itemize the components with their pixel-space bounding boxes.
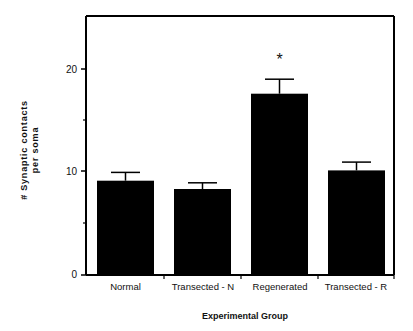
x-axis-title: Experimental Group [202, 311, 289, 321]
y-axis-title: # Synaptic contacts per soma [19, 100, 40, 200]
x-category-labels: Normal Transected - N Regenerated Transe… [110, 281, 387, 292]
significance-asterisk: * [276, 51, 282, 68]
bar-normal [97, 172, 154, 275]
bars [97, 79, 385, 275]
bar-transected-r [328, 162, 385, 275]
bar-transected-n [174, 183, 231, 275]
y-tick-label-10: 10 [66, 166, 78, 177]
y-axis-title-line1: # Synaptic contacts [19, 100, 29, 200]
category-label-normal: Normal [110, 281, 141, 292]
y-tick-label-0: 0 [71, 269, 77, 280]
bar-chart: 0 10 20 * [0, 0, 413, 331]
bar-regenerated [251, 79, 308, 275]
y-ticks: 0 10 20 [66, 64, 86, 281]
category-label-regenerated: Regenerated [253, 281, 308, 292]
y-axis-title-line2: per soma [30, 127, 40, 174]
category-label-transected-r: Transected - R [325, 281, 388, 292]
y-tick-label-20: 20 [66, 64, 78, 75]
category-label-transected-n: Transected - N [172, 281, 235, 292]
